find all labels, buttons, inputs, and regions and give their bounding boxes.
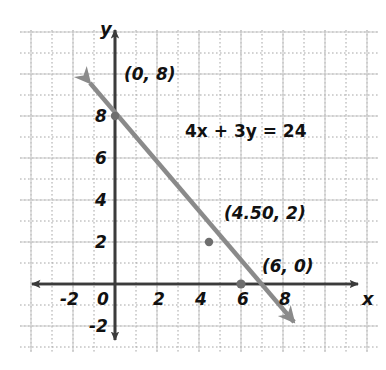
x-tick-label-0: 0 <box>97 291 109 308</box>
annotation-point-0-8: (0, 8) <box>124 66 176 83</box>
point-6-0 <box>236 279 245 288</box>
x-tick-label-neg2: -2 <box>60 291 79 308</box>
y-tick-label-4: 4 <box>95 192 107 209</box>
point-0-8 <box>111 112 119 120</box>
y-tick-label-8: 8 <box>95 108 107 125</box>
x-tick-label-4: 4 <box>195 291 207 308</box>
x-tick-label-6: 6 <box>237 291 249 308</box>
x-tick-label-2: 2 <box>153 291 165 308</box>
x-axis-label: x <box>362 290 374 308</box>
equation-label: 4x + 3y = 24 <box>185 123 307 140</box>
plot-background <box>0 0 386 370</box>
coordinate-plane-svg <box>0 0 386 370</box>
y-tick-label-6: 6 <box>95 150 107 167</box>
annotation-point-4.5-2: (4.50, 2) <box>224 205 306 222</box>
annotation-point-6-0: (6, 0) <box>262 258 314 275</box>
graph-figure: y x -2 0 2 4 6 8 8 6 4 2 -2 (0, 8) (4.50… <box>0 0 386 370</box>
point-4.5-2 <box>205 238 213 246</box>
y-tick-label-neg2: -2 <box>89 318 108 335</box>
x-tick-label-8: 8 <box>279 291 291 308</box>
y-axis-label: y <box>100 20 112 38</box>
y-tick-label-2: 2 <box>95 234 107 251</box>
